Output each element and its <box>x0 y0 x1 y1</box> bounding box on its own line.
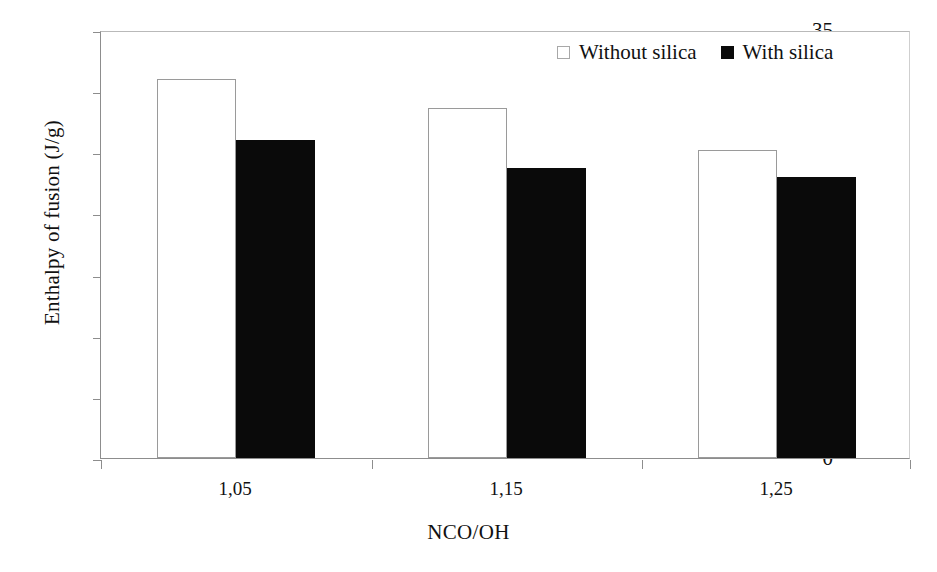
bar <box>428 108 507 458</box>
filled-square-icon <box>721 46 734 59</box>
x-axis-title: NCO/OH <box>0 520 937 545</box>
x-axis-category-label: 1,25 <box>716 478 836 500</box>
y-axis-tick <box>93 32 101 33</box>
x-axis-tick <box>910 460 911 469</box>
empty-square-icon <box>557 46 570 59</box>
y-axis-tick <box>93 93 101 94</box>
plot-area <box>100 31 910 459</box>
bar <box>507 168 586 458</box>
y-axis-tick <box>93 460 101 461</box>
x-axis-category-label: 1,15 <box>446 478 566 500</box>
bar <box>236 140 315 458</box>
y-axis-tick <box>93 338 101 339</box>
bar-chart-figure: Enthalpy of fusion (J/g) 05101520253035 … <box>0 0 937 572</box>
bar <box>777 177 856 458</box>
legend-label: With silica <box>743 42 834 63</box>
legend-entry-without-silica: Without silica <box>557 42 697 63</box>
legend-entry-with-silica: With silica <box>721 42 834 63</box>
y-axis-tick <box>93 399 101 400</box>
bar <box>157 79 236 458</box>
y-axis-title: Enthalpy of fusion (J/g) <box>40 13 65 433</box>
y-axis-tick <box>93 277 101 278</box>
y-axis-tick <box>93 154 101 155</box>
chart-legend: Without silica With silica <box>557 42 833 63</box>
x-axis-category-label: 1,05 <box>175 478 295 500</box>
x-axis-tick <box>372 460 373 469</box>
bar <box>698 150 777 458</box>
x-axis-tick <box>642 460 643 469</box>
x-axis-tick <box>101 460 102 469</box>
legend-label: Without silica <box>579 42 697 63</box>
y-axis-tick <box>93 215 101 216</box>
